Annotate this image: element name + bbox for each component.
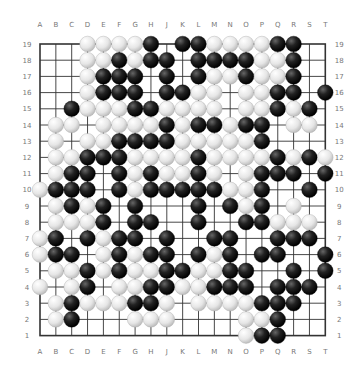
black-stone-e9[interactable] [96, 198, 112, 214]
black-stone-j4[interactable] [159, 279, 175, 295]
black-stone-q15[interactable] [270, 101, 286, 117]
white-stone-p12[interactable] [254, 150, 270, 166]
black-stone-p1[interactable] [254, 328, 270, 344]
white-stone-d8[interactable] [80, 214, 96, 230]
black-stone-s10[interactable] [302, 182, 318, 198]
black-stone-f13[interactable] [111, 133, 127, 149]
black-stone-l17[interactable] [191, 69, 207, 85]
black-stone-d11[interactable] [80, 166, 96, 182]
black-stone-l12[interactable] [191, 150, 207, 166]
white-stone-b5[interactable] [48, 263, 64, 279]
black-stone-d4[interactable] [80, 279, 96, 295]
black-stone-r4[interactable] [286, 279, 302, 295]
white-stone-k4[interactable] [175, 279, 191, 295]
white-stone-m17[interactable] [207, 69, 223, 85]
black-stone-j10[interactable] [159, 182, 175, 198]
black-stone-o18[interactable] [238, 52, 254, 68]
white-stone-b11[interactable] [48, 166, 64, 182]
white-stone-n12[interactable] [222, 150, 238, 166]
black-stone-h11[interactable] [143, 166, 159, 182]
white-stone-l5[interactable] [191, 263, 207, 279]
black-stone-h8[interactable] [143, 214, 159, 230]
black-stone-l18[interactable] [191, 52, 207, 68]
black-stone-m14[interactable] [207, 117, 223, 133]
white-stone-n10[interactable] [222, 182, 238, 198]
white-stone-l3[interactable] [191, 295, 207, 311]
black-stone-j5[interactable] [159, 263, 175, 279]
black-stone-q7[interactable] [270, 231, 286, 247]
white-stone-n19[interactable] [222, 36, 238, 52]
white-stone-j11[interactable] [159, 166, 175, 182]
black-stone-l14[interactable] [191, 117, 207, 133]
black-stone-p14[interactable] [254, 117, 270, 133]
black-stone-h13[interactable] [143, 133, 159, 149]
black-stone-f7[interactable] [111, 231, 127, 247]
white-stone-q17[interactable] [270, 69, 286, 85]
black-stone-g9[interactable] [127, 198, 143, 214]
black-stone-q16[interactable] [270, 85, 286, 101]
black-stone-r19[interactable] [286, 36, 302, 52]
black-stone-o4[interactable] [238, 279, 254, 295]
white-stone-p18[interactable] [254, 52, 270, 68]
white-stone-m19[interactable] [207, 36, 223, 52]
white-stone-m13[interactable] [207, 133, 223, 149]
white-stone-f15[interactable] [111, 101, 127, 117]
white-stone-k14[interactable] [175, 117, 191, 133]
white-stone-m15[interactable] [207, 101, 223, 117]
white-stone-k15[interactable] [175, 101, 191, 117]
white-stone-f19[interactable] [111, 36, 127, 52]
white-stone-l16[interactable] [191, 85, 207, 101]
white-stone-e3[interactable] [96, 295, 112, 311]
black-stone-n6[interactable] [222, 247, 238, 263]
white-stone-a7[interactable] [32, 231, 48, 247]
white-stone-c4[interactable] [64, 279, 80, 295]
white-stone-o9[interactable] [238, 198, 254, 214]
black-stone-g17[interactable] [127, 69, 143, 85]
white-stone-d16[interactable] [80, 85, 96, 101]
black-stone-c9[interactable] [64, 198, 80, 214]
black-stone-r17[interactable] [286, 69, 302, 85]
black-stone-l6[interactable] [191, 247, 207, 263]
black-stone-n4[interactable] [222, 279, 238, 295]
white-stone-o10[interactable] [238, 182, 254, 198]
black-stone-k10[interactable] [175, 182, 191, 198]
white-stone-o1[interactable] [238, 328, 254, 344]
white-stone-e18[interactable] [96, 52, 112, 68]
white-stone-m5[interactable] [207, 263, 223, 279]
black-stone-e17[interactable] [96, 69, 112, 85]
white-stone-q8[interactable] [270, 214, 286, 230]
go-board[interactable]: AABBCCDDEEFFGGHHJJKKLLMMNNOOPPQQRRSSTT19… [0, 0, 363, 383]
white-stone-p17[interactable] [254, 69, 270, 85]
black-stone-r5[interactable] [286, 263, 302, 279]
black-stone-n5[interactable] [222, 263, 238, 279]
white-stone-b2[interactable] [48, 312, 64, 328]
white-stone-n14[interactable] [222, 117, 238, 133]
white-stone-o12[interactable] [238, 150, 254, 166]
white-stone-g12[interactable] [127, 150, 143, 166]
white-stone-d17[interactable] [80, 69, 96, 85]
white-stone-j3[interactable] [159, 295, 175, 311]
black-stone-d10[interactable] [80, 182, 96, 198]
black-stone-f18[interactable] [111, 52, 127, 68]
black-stone-j13[interactable] [159, 133, 175, 149]
white-stone-d19[interactable] [80, 36, 96, 52]
black-stone-g13[interactable] [127, 133, 143, 149]
black-stone-c15[interactable] [64, 101, 80, 117]
white-stone-p19[interactable] [254, 36, 270, 52]
black-stone-g15[interactable] [127, 101, 143, 117]
black-stone-e12[interactable] [96, 150, 112, 166]
black-stone-s15[interactable] [302, 101, 318, 117]
white-stone-d13[interactable] [80, 133, 96, 149]
white-stone-g18[interactable] [127, 52, 143, 68]
black-stone-n9[interactable] [222, 198, 238, 214]
black-stone-s7[interactable] [302, 231, 318, 247]
black-stone-r16[interactable] [286, 85, 302, 101]
white-stone-o11[interactable] [238, 166, 254, 182]
black-stone-d12[interactable] [80, 150, 96, 166]
white-stone-m11[interactable] [207, 166, 223, 182]
black-stone-t5[interactable] [318, 263, 334, 279]
white-stone-r15[interactable] [286, 101, 302, 117]
black-stone-f10[interactable] [111, 182, 127, 198]
black-stone-q4[interactable] [270, 279, 286, 295]
black-stone-k5[interactable] [175, 263, 191, 279]
